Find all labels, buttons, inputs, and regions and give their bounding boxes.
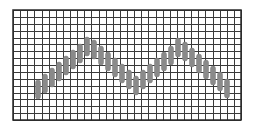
pattern-pill: [64, 56, 69, 75]
pattern-pill: [127, 70, 132, 89]
pattern-pill: [162, 52, 167, 71]
pattern-pill: [106, 52, 111, 71]
pattern-pill: [113, 58, 118, 77]
pattern-pill: [92, 40, 97, 59]
pattern-pill: [211, 66, 216, 85]
pattern-pill: [85, 37, 90, 56]
pattern-pill: [141, 70, 146, 89]
pattern-pill: [78, 44, 83, 63]
pattern-pill: [57, 62, 62, 81]
pattern-pill: [36, 80, 41, 99]
pattern-pill: [134, 76, 139, 95]
pattern-pill: [204, 60, 209, 79]
pattern-pill: [148, 64, 153, 83]
pattern-pill: [197, 54, 202, 73]
pattern-pill: [225, 79, 230, 98]
pattern-pill: [183, 42, 188, 61]
pattern-pill: [169, 46, 174, 65]
pattern-chart: [0, 0, 256, 133]
pattern-pill: [71, 50, 76, 69]
pattern-pill: [190, 48, 195, 67]
grid-diagram: [0, 0, 256, 133]
pattern-pill: [43, 74, 48, 93]
pattern-pill: [120, 64, 125, 83]
pattern-pill: [218, 72, 223, 91]
pattern-pill: [50, 68, 55, 87]
pattern-pill: [176, 38, 181, 57]
pattern-pill: [99, 46, 104, 65]
pattern-pill: [155, 58, 160, 77]
